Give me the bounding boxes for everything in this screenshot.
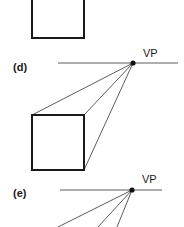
ray-bottom-right-d [84, 63, 133, 170]
perspective-diagram: (d) VP (e) VP [0, 0, 184, 227]
panel-c [32, 0, 84, 38]
front-square-d [32, 115, 84, 170]
panel-label-d: (d) [13, 61, 27, 73]
vp-label-e: VP [142, 173, 157, 185]
panel-d: (d) VP [13, 47, 178, 170]
vanishing-point-e [129, 187, 134, 192]
ray-top-right-d [84, 63, 133, 115]
panel-e: (e) VP [13, 173, 162, 227]
panel-label-e: (e) [13, 187, 27, 199]
ray-1-e [58, 190, 132, 227]
front-square-c [32, 0, 84, 38]
ray-top-left-d [32, 63, 133, 115]
vanishing-point-d [130, 60, 135, 65]
ray-3-e [117, 190, 132, 227]
ray-2-e [98, 190, 132, 227]
vp-label-d: VP [143, 47, 158, 59]
